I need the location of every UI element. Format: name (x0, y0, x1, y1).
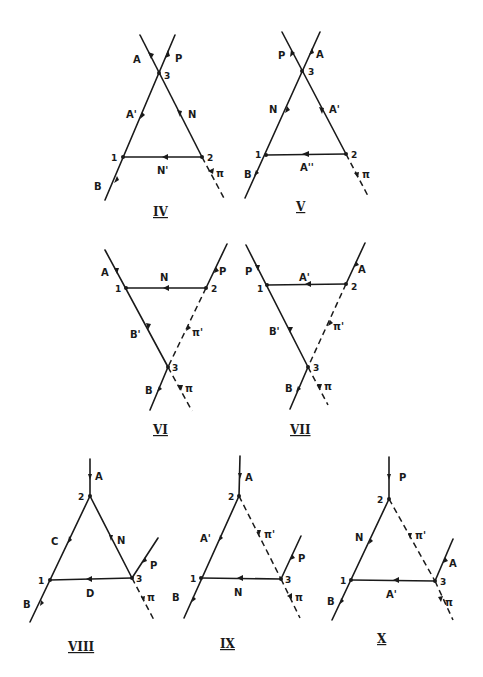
label-p: P (150, 560, 157, 571)
label-vertex-3: 3 (164, 71, 170, 81)
label-a-prime: A' (386, 589, 397, 600)
label-vertex-3: 3 (440, 577, 446, 587)
arrow-a-prime (393, 577, 399, 583)
caption-ix: IX (220, 637, 236, 651)
line-a-prime-b (184, 496, 239, 618)
label-a: A (133, 54, 141, 65)
arrow-a-double-prime (302, 151, 309, 157)
diagram-vii: P A A' 1 2 B' π' 3 B π VII (245, 243, 366, 437)
line-a-prime (351, 580, 435, 581)
label-b-prime: B' (130, 329, 141, 340)
label-p: P (245, 266, 252, 277)
label-b: B (172, 592, 180, 603)
label-vertex-1: 1 (111, 153, 117, 163)
label-vertex-3: 3 (313, 363, 319, 373)
arrow-b (254, 170, 259, 176)
vertex-1 (265, 283, 269, 287)
label-a-double-prime: A'' (300, 162, 314, 173)
caption-vii: VII (289, 423, 311, 437)
arrow-a (148, 52, 154, 59)
label-d: D (86, 588, 94, 599)
label-a-prime: A' (126, 109, 137, 120)
arrow-b (157, 386, 162, 392)
vertex-3 (130, 576, 134, 580)
vertex-2 (200, 155, 204, 159)
vertex-2 (344, 152, 348, 156)
line-c-b (30, 496, 90, 622)
label-n: N (160, 272, 168, 283)
arrow-pi (141, 596, 145, 602)
label-pi: π (147, 592, 155, 603)
label-vertex-1: 1 (340, 576, 346, 586)
caption-v: V (295, 200, 306, 214)
caption-viii: VIII (67, 640, 95, 654)
diagram-iv: A P 3 A' N 1 2 N' π B IV (94, 35, 225, 219)
vertex-3 (306, 365, 310, 369)
label-vertex-1: 1 (115, 284, 121, 294)
label-pi: π (445, 597, 453, 608)
label-pi-prime: π' (192, 327, 203, 338)
label-pi: π (362, 169, 370, 180)
label-a: A (95, 471, 103, 482)
label-n: N (269, 104, 277, 115)
label-vertex-1: 1 (38, 576, 44, 586)
vertex-1 (199, 576, 203, 580)
label-pi-prime: π' (333, 321, 344, 332)
label-n: N (117, 535, 125, 546)
label-b: B (285, 383, 293, 394)
label-vertex-2: 2 (351, 150, 357, 160)
label-a-prime: A' (329, 104, 340, 115)
label-a: A (245, 472, 253, 483)
label-pi-prime: π' (264, 529, 275, 540)
vertex-3 (166, 365, 170, 369)
caption-vi: VI (152, 423, 168, 437)
label-n: N (355, 532, 363, 543)
label-vertex-2: 2 (211, 284, 217, 294)
label-a: A (449, 558, 457, 569)
caption-iv: IV (153, 205, 169, 219)
diagram-v: P A 3 N A' 1 2 A'' B π V (244, 32, 370, 214)
vertex-3 (433, 579, 437, 583)
line-a-b-prime (105, 250, 168, 367)
arrow-d (86, 576, 92, 582)
vertex-3 (157, 71, 161, 75)
arrow-a (238, 473, 242, 479)
line-p-b-prime (246, 245, 308, 367)
label-a: A (101, 267, 109, 278)
label-vertex-3: 3 (136, 574, 142, 584)
label-a-prime: A' (200, 533, 211, 544)
label-vertex-2: 2 (207, 153, 213, 163)
arrow-pi (438, 596, 443, 602)
label-vertex-2: 2 (351, 282, 357, 292)
vertex-1 (349, 578, 353, 582)
diagram-vi: A P N 1 2 B' π' 3 B π VI (101, 244, 227, 437)
vertex-2 (237, 494, 241, 498)
label-b: B (94, 181, 102, 192)
diagram-ix: A 2 A' π' P 1 3 N π B IX (172, 456, 305, 651)
label-pi-prime: π' (415, 530, 426, 541)
label-p: P (298, 553, 305, 564)
label-vertex-3: 3 (172, 363, 178, 373)
label-p: P (399, 472, 406, 483)
vertex-1 (124, 286, 128, 290)
label-vertex-1: 1 (255, 150, 261, 160)
diagram-viii: A 2 C N P 1 3 D π B VIII (23, 459, 158, 654)
label-vertex-3: 3 (308, 67, 314, 77)
label-p: P (278, 50, 285, 61)
vertex-2 (387, 497, 391, 501)
label-p: P (175, 53, 182, 64)
label-a: A (358, 264, 366, 275)
caption-x: X (377, 632, 387, 646)
arrow-pi (354, 172, 359, 178)
label-vertex-2: 2 (228, 492, 234, 502)
label-pi: π (324, 381, 332, 392)
diagram-x: P 2 N π' A 1 3 A' π B X (327, 457, 457, 646)
vertex-3 (300, 69, 304, 73)
label-n: N (234, 587, 242, 598)
vertex-2 (344, 282, 348, 286)
label-pi: π (185, 383, 193, 394)
label-vertex-3: 3 (285, 575, 291, 585)
arrow-n (163, 285, 169, 291)
arrow-p (387, 474, 391, 480)
label-vertex-2: 2 (377, 495, 383, 505)
